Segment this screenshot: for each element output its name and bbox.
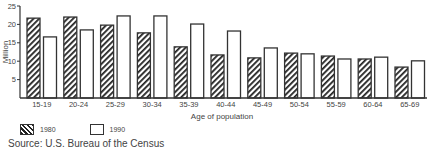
bar-1990-25-29 xyxy=(117,16,130,98)
plain-swatch-icon xyxy=(90,124,104,135)
bar-1990-55-59 xyxy=(338,59,351,98)
bar-1980-30-34 xyxy=(137,33,150,98)
legend-item-1990: 1990 xyxy=(90,124,126,135)
y-axis-title: Million xyxy=(1,41,10,64)
bar-1990-20-24 xyxy=(80,30,93,98)
bar-1980-25-29 xyxy=(101,25,114,98)
y-tick-label: 20 xyxy=(8,20,16,29)
x-tick-label: 55-59 xyxy=(327,100,346,109)
bar-1980-40-44 xyxy=(211,55,224,98)
legend: 1980 1990 xyxy=(20,124,159,135)
y-tick-label: 5 xyxy=(12,75,16,84)
bar-1990-65-69 xyxy=(412,61,425,98)
bar-1990-60-64 xyxy=(375,57,388,98)
x-axis: 15-1920-2425-2930-3435-3940-4445-4950-54… xyxy=(20,98,427,109)
bar-1990-45-49 xyxy=(264,48,277,98)
x-tick-label: 35-39 xyxy=(179,100,198,109)
bar-1980-45-49 xyxy=(248,58,261,98)
bar-1980-20-24 xyxy=(64,17,77,98)
bar-1990-50-54 xyxy=(301,54,314,98)
legend-label: 1980 xyxy=(40,126,56,133)
source-note: Source: U.S. Bureau of the Census xyxy=(8,138,164,148)
bars xyxy=(27,16,425,98)
x-tick-label: 20-24 xyxy=(69,100,88,109)
bar-1980-35-39 xyxy=(174,47,187,98)
bar-1990-15-19 xyxy=(44,37,57,98)
legend-item-1980: 1980 xyxy=(20,124,56,135)
bar-1980-55-59 xyxy=(321,56,334,98)
x-tick-label: 50-54 xyxy=(290,100,309,109)
bar-1990-35-39 xyxy=(191,24,204,98)
x-tick-label: 60-64 xyxy=(363,100,382,109)
bar-1990-30-34 xyxy=(154,16,167,98)
bar-1980-60-64 xyxy=(358,59,371,98)
bar-1980-15-19 xyxy=(27,18,40,98)
x-tick-label: 65-69 xyxy=(400,100,419,109)
legend-label: 1990 xyxy=(110,126,126,133)
x-tick-label: 25-29 xyxy=(106,100,125,109)
x-tick-label: 15-19 xyxy=(32,100,51,109)
bar-1980-50-54 xyxy=(285,53,298,98)
x-tick-label: 45-49 xyxy=(253,100,272,109)
bar-1980-65-69 xyxy=(395,67,408,98)
x-axis-title: Age of population xyxy=(191,112,253,121)
x-tick-label: 30-34 xyxy=(143,100,162,109)
hatched-swatch-icon xyxy=(20,124,34,135)
bar-1990-40-44 xyxy=(228,31,241,98)
y-tick-label: 25 xyxy=(8,2,16,11)
x-tick-label: 40-44 xyxy=(216,100,235,109)
